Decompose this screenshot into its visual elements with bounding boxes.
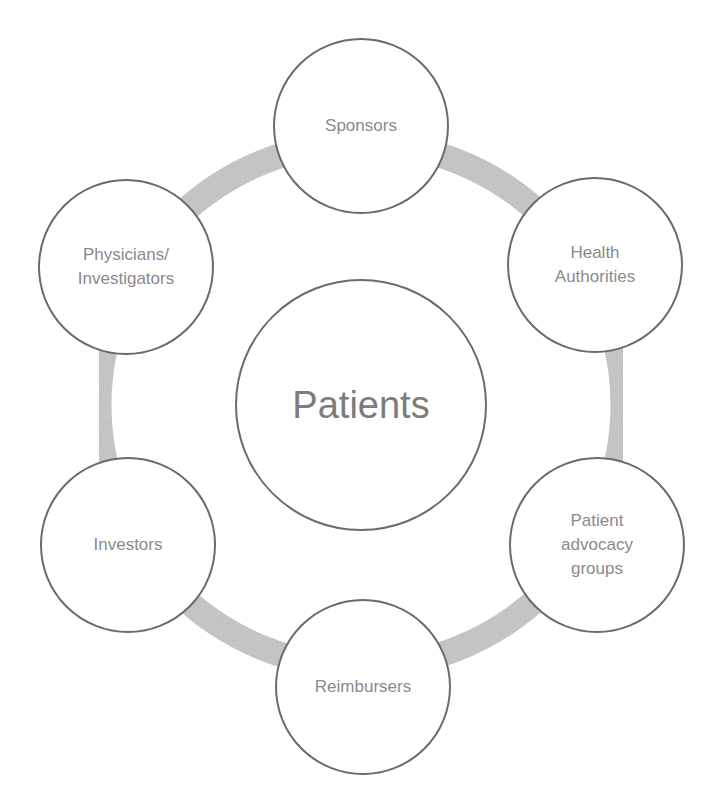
center-node-patients: Patients xyxy=(235,279,487,531)
center-node-label: Patients xyxy=(292,383,429,427)
node-sponsors: Sponsors xyxy=(273,38,449,214)
node-reimbursers: Reimbursers xyxy=(275,599,451,775)
node-label: Health Authorities xyxy=(555,241,635,289)
node-health-authorities: Health Authorities xyxy=(507,177,683,353)
node-label: Patient advocacy groups xyxy=(561,509,633,581)
node-label: Physicians/ Investigators xyxy=(78,243,174,291)
node-patient-advocacy-groups: Patient advocacy groups xyxy=(509,457,685,633)
node-investors: Investors xyxy=(40,457,216,633)
node-physicians-investigators: Physicians/ Investigators xyxy=(38,179,214,355)
node-label: Investors xyxy=(94,533,163,557)
node-label: Reimbursers xyxy=(315,675,411,699)
node-label: Sponsors xyxy=(325,114,397,138)
stakeholder-diagram: Patients Sponsors Health Authorities Pat… xyxy=(0,0,719,812)
